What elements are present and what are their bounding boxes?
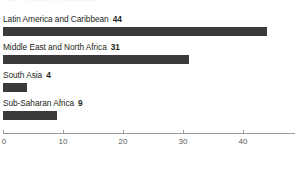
x-axis-tick: [243, 130, 244, 134]
bar-label: Sub-Saharan Africa9: [3, 98, 83, 109]
bar[interactable]: [3, 83, 27, 92]
bar-value-label: 31: [111, 42, 120, 52]
bar[interactable]: [3, 55, 189, 64]
x-axis-tick-label: 0: [2, 137, 6, 147]
bar-label: South Asia4: [3, 70, 51, 81]
x-axis-tick: [123, 130, 124, 134]
bar-category-label: Sub-Saharan Africa: [3, 98, 74, 108]
bar-value-label: 44: [113, 14, 122, 24]
bar[interactable]: [3, 27, 267, 36]
bar-category-label: South Asia: [3, 70, 42, 80]
x-axis-line: [3, 133, 295, 134]
plot-area: Latin America and Caribbean44 Middle Eas…: [0, 0, 297, 170]
x-axis-tick: [3, 130, 4, 134]
bar-category-label: Latin America and Caribbean: [3, 14, 109, 24]
bar-label: Latin America and Caribbean44: [3, 14, 122, 25]
x-axis-tick-label: 20: [119, 137, 128, 147]
bar-chart: Latin America and Caribbean 44 Latin Ame…: [0, 0, 297, 170]
x-axis-tick-label: 10: [59, 137, 68, 147]
bar[interactable]: [3, 111, 57, 120]
x-axis-tick-label: 40: [239, 137, 248, 147]
x-axis-tick-label: 30: [179, 137, 188, 147]
bar-value-label: 4: [46, 70, 51, 80]
bar-value-label: 9: [78, 98, 83, 108]
bar-category-label: Middle East and North Africa: [3, 42, 107, 52]
x-axis-tick: [183, 130, 184, 134]
x-axis-tick: [63, 130, 64, 134]
bar-label: Middle East and North Africa31: [3, 42, 120, 53]
